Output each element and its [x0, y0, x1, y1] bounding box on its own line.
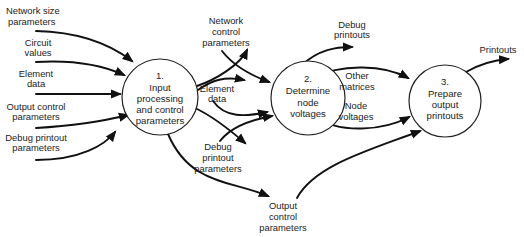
process-3-line-1: Prepare [428, 88, 462, 99]
process-2-number: 2. [304, 73, 312, 84]
process-1-line-2: processing [137, 93, 183, 104]
label-circuit-values: Circuit values [24, 37, 51, 58]
label-line: parameters [12, 111, 60, 122]
process-1-line-4: parameters [136, 115, 185, 126]
label-line: parameters [202, 37, 250, 48]
label-line: data [27, 78, 46, 89]
label-element-data-in: Element data [19, 68, 54, 89]
label-line: parameters [8, 16, 56, 27]
process-2-line-3: voltages [290, 108, 326, 119]
label-line: printouts [334, 29, 370, 40]
label-line: Other [345, 70, 368, 81]
label-line: matrices [339, 81, 375, 92]
process-2-line-2: node [297, 97, 318, 108]
label-line: Network [209, 15, 244, 26]
arrow-debug-printout-parameters-out [195, 108, 245, 143]
label-output-control-parameters-mid: Output control parameters [259, 200, 307, 233]
label-line: Debug [204, 141, 232, 152]
process-3-line-2: output [432, 99, 459, 110]
label-output-control-parameters-in: Output control parameters [7, 101, 66, 122]
label-debug-printouts: Debug printouts [334, 19, 370, 40]
label-line: parameters [194, 163, 242, 174]
label-line: control [269, 211, 297, 222]
label-line: data [208, 93, 227, 104]
process-1-line-3: and control [136, 104, 183, 115]
label-line: control [212, 26, 240, 37]
process-1: 1. Input processing and control paramete… [122, 59, 198, 135]
label-line: Node [345, 100, 367, 111]
label-network-control-parameters: Network control parameters [202, 15, 250, 48]
label-line: voltages [339, 111, 374, 122]
label-other-matrices: Other matrices [339, 70, 375, 92]
arrow-network-control-to-p2 [222, 51, 269, 82]
process-1-line-1: Input [149, 82, 171, 93]
arrow-output-control-to-p3 [297, 131, 420, 198]
label-element-data-mid: Element data [200, 83, 235, 104]
data-flow-diagram: 1. Input processing and control paramete… [0, 0, 524, 237]
process-3-number: 3. [441, 76, 449, 87]
label-line: parameters [259, 222, 307, 233]
process-3-line-3: printouts [427, 110, 464, 121]
process-3: 3. Prepare output printouts [409, 65, 481, 137]
process-2: 2. Determine node voltages [271, 61, 345, 135]
label-printouts: Printouts [480, 44, 517, 55]
process-2-line-1: Determine [286, 85, 330, 96]
label-line: printout [202, 152, 234, 163]
label-line: Output [269, 200, 298, 211]
label-line: parameters [12, 142, 60, 153]
process-1-number: 1. [156, 70, 164, 81]
arrow-printouts [466, 59, 508, 72]
label-line: Network size [6, 5, 60, 16]
label-debug-printout-parameters-mid: Debug printout parameters [194, 141, 242, 174]
label-network-size-parameters: Network size parameters [6, 5, 60, 27]
label-node-voltages: Node voltages [339, 100, 374, 122]
label-line: values [24, 47, 51, 58]
label-line: Printouts [480, 44, 517, 55]
label-debug-printout-parameters-in: Debug printout parameters [5, 132, 67, 153]
